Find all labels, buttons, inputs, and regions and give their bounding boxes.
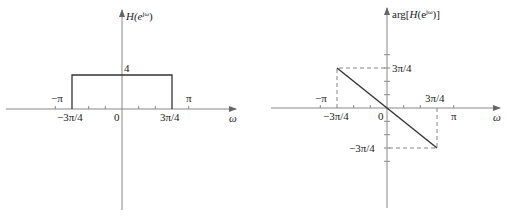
magnitude-tick-neg-3pi4: −3π/4: [57, 111, 83, 123]
phase-tick-neg-3pi4-y: −3π/4: [349, 142, 375, 154]
magnitude-tick-neg-pi: −π: [51, 92, 63, 104]
phase-tick-pos-pi: π: [451, 110, 457, 122]
diagram-canvas: 4 −π −3π/4 0 3π/4 π ω H(ejω): [0, 0, 506, 218]
phase-tick-zero: 0: [378, 110, 384, 122]
phase-tick-pos-3pi4-y: 3π/4: [392, 62, 412, 74]
phase-x-label: ω: [493, 111, 501, 123]
magnitude-y-label: H(ejω): [125, 10, 153, 23]
magnitude-x-label: ω: [229, 112, 237, 124]
magnitude-tick-pos-pi: π: [186, 92, 192, 104]
magnitude-tick-zero: 0: [114, 111, 120, 123]
magnitude-value-label: 4: [124, 62, 130, 74]
magnitude-tick-pos-3pi4: 3π/4: [160, 111, 180, 123]
phase-tick-neg-pi: −π: [315, 92, 327, 104]
phase-tick-neg-3pi4: −3π/4: [323, 110, 349, 122]
phase-plot: 3π/4 −3π/4 −π −3π/4 0 3π/4 π ω arg[H(ejω…: [271, 8, 501, 208]
magnitude-plot: 4 −π −3π/4 0 3π/4 π ω H(ejω): [6, 10, 237, 210]
phase-y-label: arg[H(ejω)]: [392, 8, 440, 21]
phase-tick-pos-3pi4-x: 3π/4: [425, 92, 445, 104]
